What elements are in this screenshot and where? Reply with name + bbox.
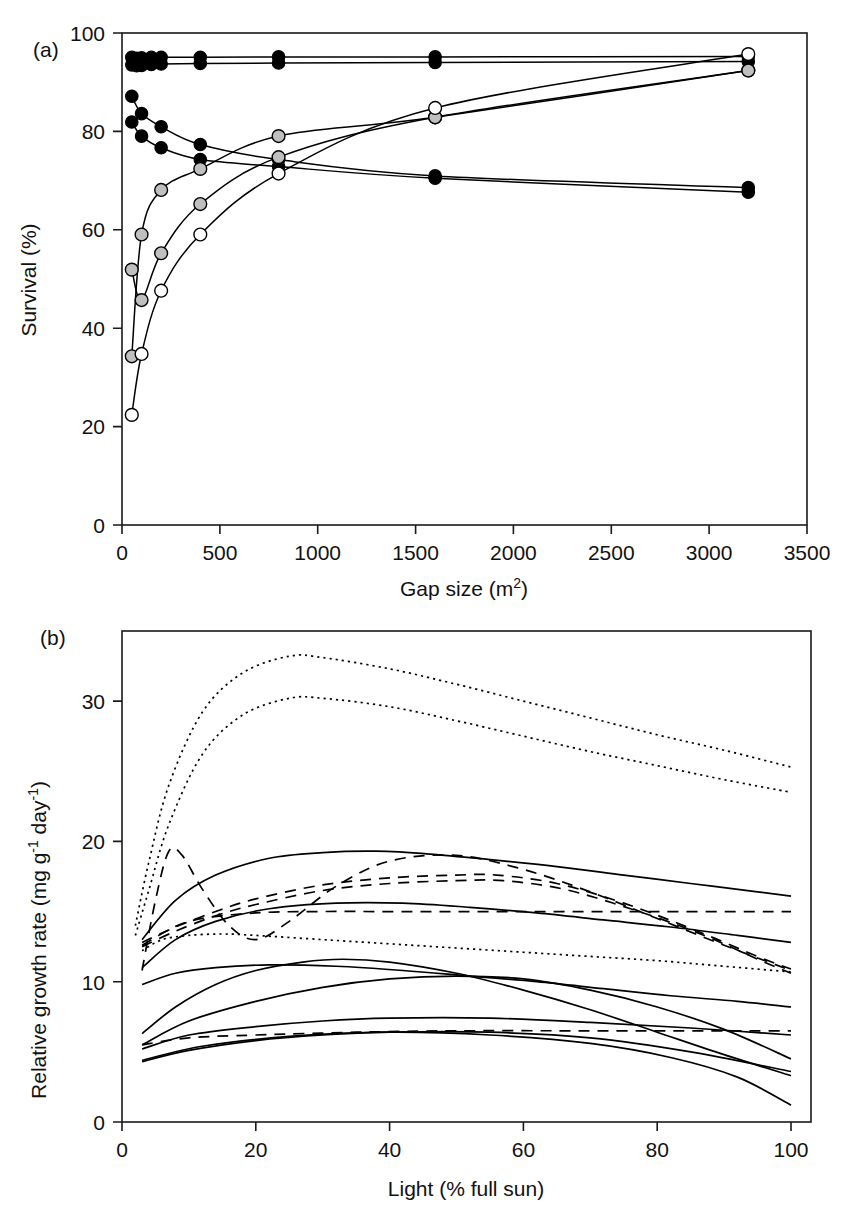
panel-a-y-ticks xyxy=(113,33,122,525)
panel-b-ytick-30: 30 xyxy=(82,690,105,713)
panel-a-x-axis-title-sup: 2 xyxy=(513,575,521,591)
panel-a-xtick-1500: 1500 xyxy=(392,541,439,564)
panel-b-series-line xyxy=(142,874,791,969)
panel-b-y-title-p1: -1 xyxy=(25,840,41,853)
panel-b-xtick-60: 60 xyxy=(512,1138,535,1161)
panel-a-data-point xyxy=(272,130,285,143)
figure-root: (a) Survival (%) 0 20 40 60 80 100 0 500… xyxy=(0,0,857,1223)
panel-a-data-point xyxy=(135,228,148,241)
panel-a-xtick-3000: 3000 xyxy=(686,541,733,564)
panel-a-x-axis-title-main: Gap size (m xyxy=(400,577,513,600)
panel-b-series-line xyxy=(135,655,791,926)
panel-a-data-point xyxy=(135,348,148,361)
panel-b-xtick-40: 40 xyxy=(378,1138,401,1161)
panel-b-series-line xyxy=(142,851,791,939)
panel-b: (b) Relative growth rate (mg g-1 day-1) … xyxy=(0,600,857,1223)
panel-a-ytick-40: 40 xyxy=(82,317,105,340)
panel-a-data-point xyxy=(125,408,138,421)
panel-a-data-point xyxy=(155,121,167,133)
panel-a-data-point xyxy=(155,142,167,154)
panel-a-xtick-0: 0 xyxy=(116,541,128,564)
panel-b-series-line xyxy=(142,911,791,945)
panel-b-y-title-p3: -1 xyxy=(25,788,41,801)
panel-a-data-point xyxy=(194,228,207,241)
panel-a-data-point xyxy=(135,130,147,142)
panel-a-data-point xyxy=(135,107,147,119)
panel-b-y-title-p0: Relative growth rate (mg g xyxy=(27,853,50,1099)
panel-b-xtick-80: 80 xyxy=(646,1138,669,1161)
panel-a-data-point xyxy=(429,56,441,68)
panel-b-x-axis-title: Light (% full sun) xyxy=(388,1177,544,1200)
panel-a-data-point xyxy=(742,48,755,61)
panel-b-series-line xyxy=(142,1032,791,1072)
panel-a-data-point xyxy=(135,294,148,307)
panel-b-y-title-p4: ) xyxy=(27,781,50,788)
panel-a-data-point xyxy=(155,184,168,197)
panel-b-y-axis-title: Relative growth rate (mg g-1 day-1) xyxy=(25,781,50,1099)
panel-a-data-point xyxy=(194,162,207,175)
panel-a-xtick-2000: 2000 xyxy=(490,541,537,564)
panel-b-xtick-20: 20 xyxy=(244,1138,267,1161)
panel-a-data-point xyxy=(194,138,206,150)
panel-a-ytick-100: 100 xyxy=(70,22,105,45)
panel-a-data-point xyxy=(272,151,285,164)
panel-a-data-point xyxy=(742,64,755,77)
panel-a-ytick-80: 80 xyxy=(82,120,105,143)
panel-a-data-point xyxy=(194,198,207,211)
panel-a-data-point xyxy=(125,263,138,276)
panel-a-x-tick-labels: 0 500 1000 1500 2000 2500 3000 3500 xyxy=(116,541,830,564)
panel-a-ytick-60: 60 xyxy=(82,218,105,241)
panel-b-ytick-20: 20 xyxy=(82,830,105,853)
panel-a: (a) Survival (%) 0 20 40 60 80 100 0 500… xyxy=(0,0,857,600)
panel-a-xtick-3500: 3500 xyxy=(784,541,831,564)
panel-a-ytick-20: 20 xyxy=(82,415,105,438)
panel-b-xtick-100: 100 xyxy=(773,1138,808,1161)
panel-a-data-point xyxy=(155,284,168,297)
panel-a-data-point xyxy=(742,186,754,198)
panel-b-ytick-10: 10 xyxy=(82,971,105,994)
panel-b-ytick-0: 0 xyxy=(93,1111,105,1134)
panel-a-data-point xyxy=(126,90,138,102)
panel-a-plot-frame xyxy=(122,33,807,525)
panel-b-y-title-p2: day xyxy=(27,800,50,840)
panel-a-ytick-0: 0 xyxy=(93,514,105,537)
panel-a-data-point xyxy=(272,57,284,69)
panel-a-data-point xyxy=(429,172,441,184)
panel-a-xtick-2500: 2500 xyxy=(588,541,635,564)
panel-b-series-line xyxy=(135,697,791,936)
panel-a-data-point xyxy=(194,57,206,69)
panel-a-y-tick-labels: 0 20 40 60 80 100 xyxy=(70,22,105,537)
panel-b-series-line xyxy=(142,880,791,973)
panel-b-label: (b) xyxy=(40,626,66,649)
panel-b-x-ticks xyxy=(122,1122,791,1131)
panel-a-data-point xyxy=(126,116,138,128)
panel-a-data-point xyxy=(155,58,167,70)
panel-b-data-layer xyxy=(135,655,791,1105)
panel-a-label: (a) xyxy=(33,38,59,61)
panel-a-data-layer xyxy=(125,48,754,422)
panel-a-xtick-500: 500 xyxy=(202,541,237,564)
panel-b-y-tick-labels: 0 10 20 30 xyxy=(82,690,105,1134)
panel-a-data-point xyxy=(155,247,168,260)
panel-b-series-line xyxy=(142,965,791,1007)
panel-b-xtick-0: 0 xyxy=(116,1138,128,1161)
panel-a-x-axis-title-tail: ) xyxy=(521,577,528,600)
panel-a-data-point xyxy=(429,102,442,115)
panel-a-data-point xyxy=(272,167,285,180)
panel-b-y-ticks xyxy=(113,701,122,1122)
panel-a-x-axis-title: Gap size (m2) xyxy=(400,575,528,600)
panel-a-x-ticks xyxy=(122,525,807,534)
panel-b-x-tick-labels: 0 20 40 60 80 100 xyxy=(116,1138,808,1161)
panel-a-xtick-1000: 1000 xyxy=(294,541,341,564)
panel-a-y-axis-title: Survival (%) xyxy=(17,223,40,336)
